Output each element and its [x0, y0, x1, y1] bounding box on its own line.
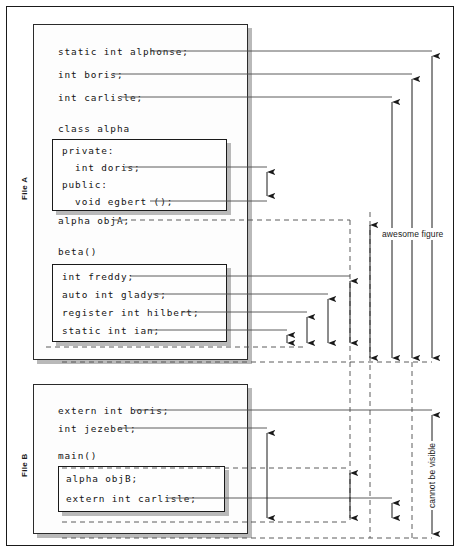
- class-alpha-member-3: void egbert ();: [62, 197, 173, 206]
- class-alpha-member-1: int doris;: [62, 163, 141, 172]
- beta-local-3: static int ian;: [62, 326, 160, 335]
- file-a-global-1: int boris;: [58, 70, 123, 79]
- alpha-obja-decl: alpha objA;: [58, 216, 130, 225]
- beta-local-0: int freddy;: [62, 272, 134, 281]
- main-local-0: alpha objB;: [66, 474, 138, 483]
- file-b-label: File B: [20, 453, 29, 477]
- file-b-global-0: extern int boris;: [58, 406, 169, 415]
- class-alpha-member-0: private:: [62, 146, 114, 155]
- beta-local-2: register int hilbert;: [62, 308, 199, 317]
- main-local-1: extern int carlisle;: [66, 494, 197, 503]
- class-alpha-header: class alpha: [58, 124, 130, 133]
- file-a-label: File A: [20, 177, 29, 200]
- beta-local-1: auto int gladys;: [62, 290, 167, 299]
- file-a-global-0: static int alphonse;: [58, 47, 189, 56]
- diagram-canvas: File A static int alphonse; int boris; i…: [0, 0, 462, 554]
- annotation-awesome-figure: awesome figure: [380, 228, 445, 240]
- beta-function-header: beta(): [58, 247, 97, 256]
- file-a-global-2: int carlisle;: [58, 93, 143, 102]
- file-b-global-1: int jezebel;: [58, 424, 137, 433]
- class-alpha-member-2: public:: [62, 180, 108, 189]
- main-function-header: main(): [58, 451, 97, 460]
- annotation-cannot-be-visible: cannot be visible: [426, 441, 438, 510]
